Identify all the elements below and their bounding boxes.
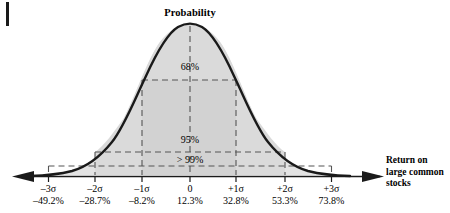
x-tick-+3-sigma: +3σ 73.8% xyxy=(302,183,362,207)
x-axis-arrow-right xyxy=(362,171,384,182)
chart-title: Probability xyxy=(0,8,380,19)
normal-distribution-figure: Probability 68% 95% > 99% –3σ –49.2% –2σ… xyxy=(0,0,450,213)
tick-sigma-label: +3σ xyxy=(302,183,362,195)
tick-percent-label: 73.8% xyxy=(302,195,362,207)
x-axis-ticks xyxy=(49,177,332,183)
band-95-label: 95% xyxy=(145,135,235,145)
band-99-label: > 99% xyxy=(145,155,235,165)
x-axis-arrow-left xyxy=(12,171,34,182)
band-68-label: 68% xyxy=(145,62,235,72)
x-axis-caption: Return on large common stocks xyxy=(386,155,450,190)
distribution-plot xyxy=(0,0,450,213)
